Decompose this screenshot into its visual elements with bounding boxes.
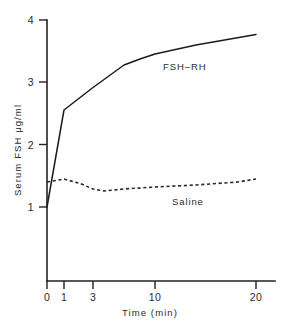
x-tick-label-20: 20 xyxy=(250,291,262,303)
x-tick-label-0: 0 xyxy=(44,291,50,303)
y-tick-label-4: 4 xyxy=(28,14,34,26)
y-tick-label-3: 3 xyxy=(28,76,34,88)
series-line-fsh-rh xyxy=(47,35,256,208)
x-axis-title: Time (min) xyxy=(122,307,178,318)
x-axis-ticks xyxy=(47,281,256,289)
x-tick-label-1: 1 xyxy=(61,291,67,303)
y-axis-title: Serum FSH μg/ml xyxy=(12,104,23,196)
x-axis-tick-labels: 0 1 3 10 20 xyxy=(44,291,262,303)
series-label-saline: Saline xyxy=(172,196,204,207)
fsh-time-line-chart: 4 3 2 1 0 1 3 10 20 Time (min) Serum FSH… xyxy=(0,0,286,321)
y-tick-label-2: 2 xyxy=(28,139,34,151)
x-tick-label-3: 3 xyxy=(90,291,96,303)
series-label-fsh-rh: FSH–RH xyxy=(163,61,206,72)
y-axis-tick-labels: 4 3 2 1 xyxy=(28,14,34,213)
figure-container: 4 3 2 1 0 1 3 10 20 Time (min) Serum FSH… xyxy=(0,0,286,321)
series-line-saline xyxy=(47,179,256,191)
y-tick-label-1: 1 xyxy=(28,201,34,213)
x-tick-label-10: 10 xyxy=(149,291,161,303)
y-axis-ticks xyxy=(39,20,47,207)
